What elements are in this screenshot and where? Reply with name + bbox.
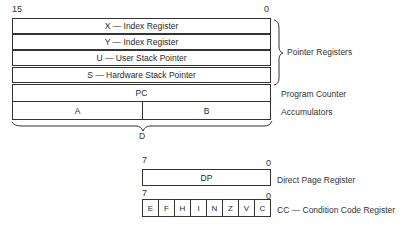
program-counter-label: Program Counter <box>281 89 346 99</box>
flag-n: N <box>207 200 223 217</box>
flag-z: Z <box>223 200 239 217</box>
dp-bit-0-label: 0 <box>266 158 271 168</box>
flag-i: I <box>191 200 207 217</box>
d-register-label: D <box>139 131 145 141</box>
cc-register: E F H I N Z V C <box>142 199 271 217</box>
pointer-registers-label: Pointer Registers <box>287 47 352 57</box>
accumulators-label: Accumulators <box>281 107 333 117</box>
flag-v: V <box>239 200 255 217</box>
condition-code-register-label: CC — Condition Code Register <box>277 205 395 215</box>
cc-bit-7-label: 7 <box>142 188 147 198</box>
flag-c: C <box>255 200 270 217</box>
direct-page-register-label: Direct Page Register <box>277 175 355 185</box>
flag-h: H <box>175 200 191 217</box>
dp-bit-7-label: 7 <box>142 155 147 165</box>
flag-f: F <box>159 200 175 217</box>
brace-graphics <box>0 0 410 228</box>
dp-register: DP <box>142 169 271 186</box>
flag-e: E <box>143 200 159 217</box>
